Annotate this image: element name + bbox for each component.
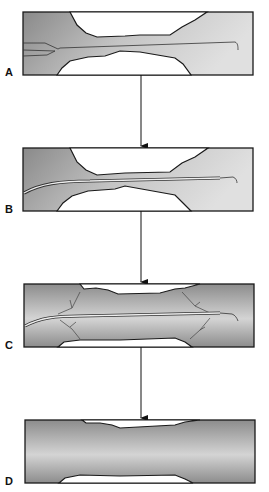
panel-a <box>23 12 253 75</box>
panel-label-d: D <box>5 475 13 487</box>
panel-label-a: A <box>5 66 13 78</box>
diagram-canvas <box>0 0 269 492</box>
panel-label-c: C <box>5 339 13 351</box>
plaque-bottom-d <box>59 475 193 483</box>
panel-d <box>25 420 255 483</box>
panel-label-b: B <box>5 203 13 215</box>
panel-c <box>24 284 254 347</box>
panel-b <box>23 148 253 211</box>
